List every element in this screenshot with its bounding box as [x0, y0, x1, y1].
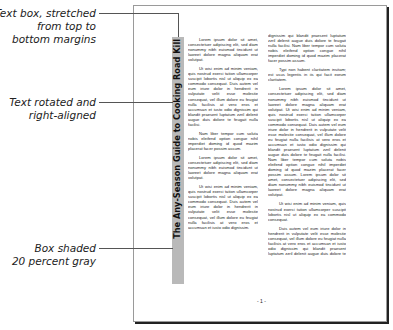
callout-line: Text box, stretched	[0, 7, 96, 20]
paragraph: Typi non habent claritatem insitam; est …	[268, 67, 346, 82]
callout-text-box: Text box, stretched from top to bottom m…	[0, 7, 96, 46]
sidebar-title: The Any-Season Guide to Cooking Road Kil…	[171, 37, 183, 284]
paragraph: Ut wisi enim ad minim veniam, quis nostr…	[188, 66, 258, 127]
paragraph: dignissim qui blandit praesent luptatum …	[268, 33, 346, 63]
leader-line-1	[99, 13, 178, 14]
page-number: - 1 -	[257, 298, 266, 304]
callout-line: right-aligned	[9, 109, 96, 122]
leader-line-3	[99, 248, 173, 249]
paragraph: Nam liber tempor cum soluta nobis eleife…	[188, 131, 258, 151]
paragraph: Ut wisi enim ad minim veniam, quis nostr…	[268, 201, 346, 221]
leader-line-1-drop	[178, 13, 179, 37]
paragraph: Lorem ipsum dolor sit amet, consectetuer…	[188, 155, 258, 180]
paragraph: Ut wisi enim ad minim veniam, quis nostr…	[188, 184, 258, 229]
text-column-2: dignissim qui blandit praesent luptatum …	[268, 33, 346, 257]
callout-line: Box shaded	[12, 242, 96, 255]
paragraph: Lorem ipsum dolor sit amet, consectetuer…	[268, 86, 346, 197]
callout-text-rotated: Text rotated and right-aligned	[9, 96, 96, 122]
leader-line-2	[99, 102, 173, 103]
callout-line: bottom margins	[0, 33, 96, 46]
callout-line: from top to	[0, 20, 96, 33]
paragraph: Lorem ipsum dolor sit amet, consectetuer…	[188, 37, 258, 62]
text-column-1: Lorem ipsum dolor sit amet, consectetuer…	[188, 37, 258, 284]
callout-box-shaded: Box shaded 20 percent gray	[12, 242, 96, 268]
callout-line: 20 percent gray	[12, 255, 96, 268]
callout-line: Text rotated and	[9, 96, 96, 109]
paragraph: Duis autem vel eum iriure dolor in hendr…	[268, 226, 346, 257]
sidebar-title-container: The Any-Season Guide to Cooking Road Kil…	[172, 37, 184, 284]
